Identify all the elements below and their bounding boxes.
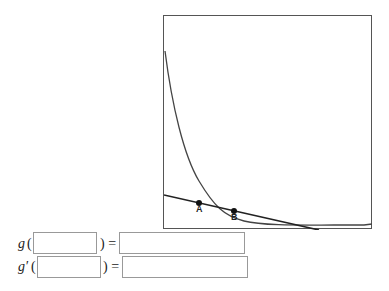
- graph-panel[interactable]: A B: [163, 15, 372, 229]
- g-open-paren: (: [27, 236, 32, 252]
- point-b-label: B: [231, 212, 238, 222]
- g-arg-input[interactable]: [33, 232, 97, 254]
- g-prime-result-input[interactable]: [122, 256, 248, 278]
- g-prime-arg-input[interactable]: [37, 256, 101, 278]
- g-prime-close-equals: ) =: [103, 259, 119, 275]
- g-prime-open-paren: (: [31, 259, 36, 275]
- g-label: g: [18, 236, 25, 252]
- tangent-line: [164, 195, 319, 230]
- graph-canvas[interactable]: [164, 16, 373, 230]
- g-result-input[interactable]: [119, 232, 245, 254]
- point-a-label: A: [196, 204, 203, 214]
- g-close-equals: ) =: [100, 236, 116, 252]
- g-prime-label: g′: [18, 259, 28, 275]
- curve-g: [165, 51, 372, 225]
